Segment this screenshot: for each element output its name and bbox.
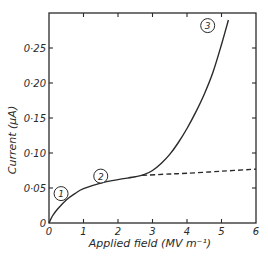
region-3-marker: 3 bbox=[201, 19, 215, 33]
y-tick-label: 0·20 bbox=[24, 78, 46, 89]
data-series bbox=[49, 20, 256, 223]
x-tick-label: 3 bbox=[149, 226, 155, 237]
x-tick-label: 2 bbox=[115, 226, 121, 237]
y-axis-ticks: 00·050·100·150·200·25 bbox=[24, 43, 256, 229]
y-tick-label: 0 bbox=[40, 218, 46, 229]
svg-text:2: 2 bbox=[98, 172, 104, 182]
y-axis-title: Current (μA) bbox=[6, 106, 19, 174]
x-tick-label: 5 bbox=[218, 226, 224, 237]
x-tick-label: 0 bbox=[46, 226, 52, 237]
x-tick-label: 1 bbox=[80, 226, 86, 237]
y-tick-label: 0·10 bbox=[24, 148, 46, 159]
plot-frame bbox=[49, 13, 256, 223]
y-tick-label: 0·05 bbox=[24, 183, 46, 194]
y-tick-label: 0·15 bbox=[24, 113, 46, 124]
region-2-marker: 2 bbox=[94, 169, 108, 183]
plot-border bbox=[49, 13, 256, 223]
region-1-marker: 1 bbox=[54, 187, 68, 201]
y-tick-label: 0·25 bbox=[24, 43, 46, 54]
x-axis-ticks: 0123456 bbox=[46, 13, 259, 237]
chart: 0123456 00·050·100·150·200·25 123 Applie… bbox=[0, 0, 268, 259]
svg-text:3: 3 bbox=[205, 21, 211, 31]
dashed-extrapolation-line bbox=[142, 169, 256, 175]
x-tick-label: 6 bbox=[253, 226, 259, 237]
x-axis-title: Applied field (MV m⁻¹) bbox=[88, 237, 211, 250]
svg-text:1: 1 bbox=[58, 189, 64, 199]
current-curve bbox=[49, 20, 228, 223]
x-tick-label: 4 bbox=[184, 226, 190, 237]
